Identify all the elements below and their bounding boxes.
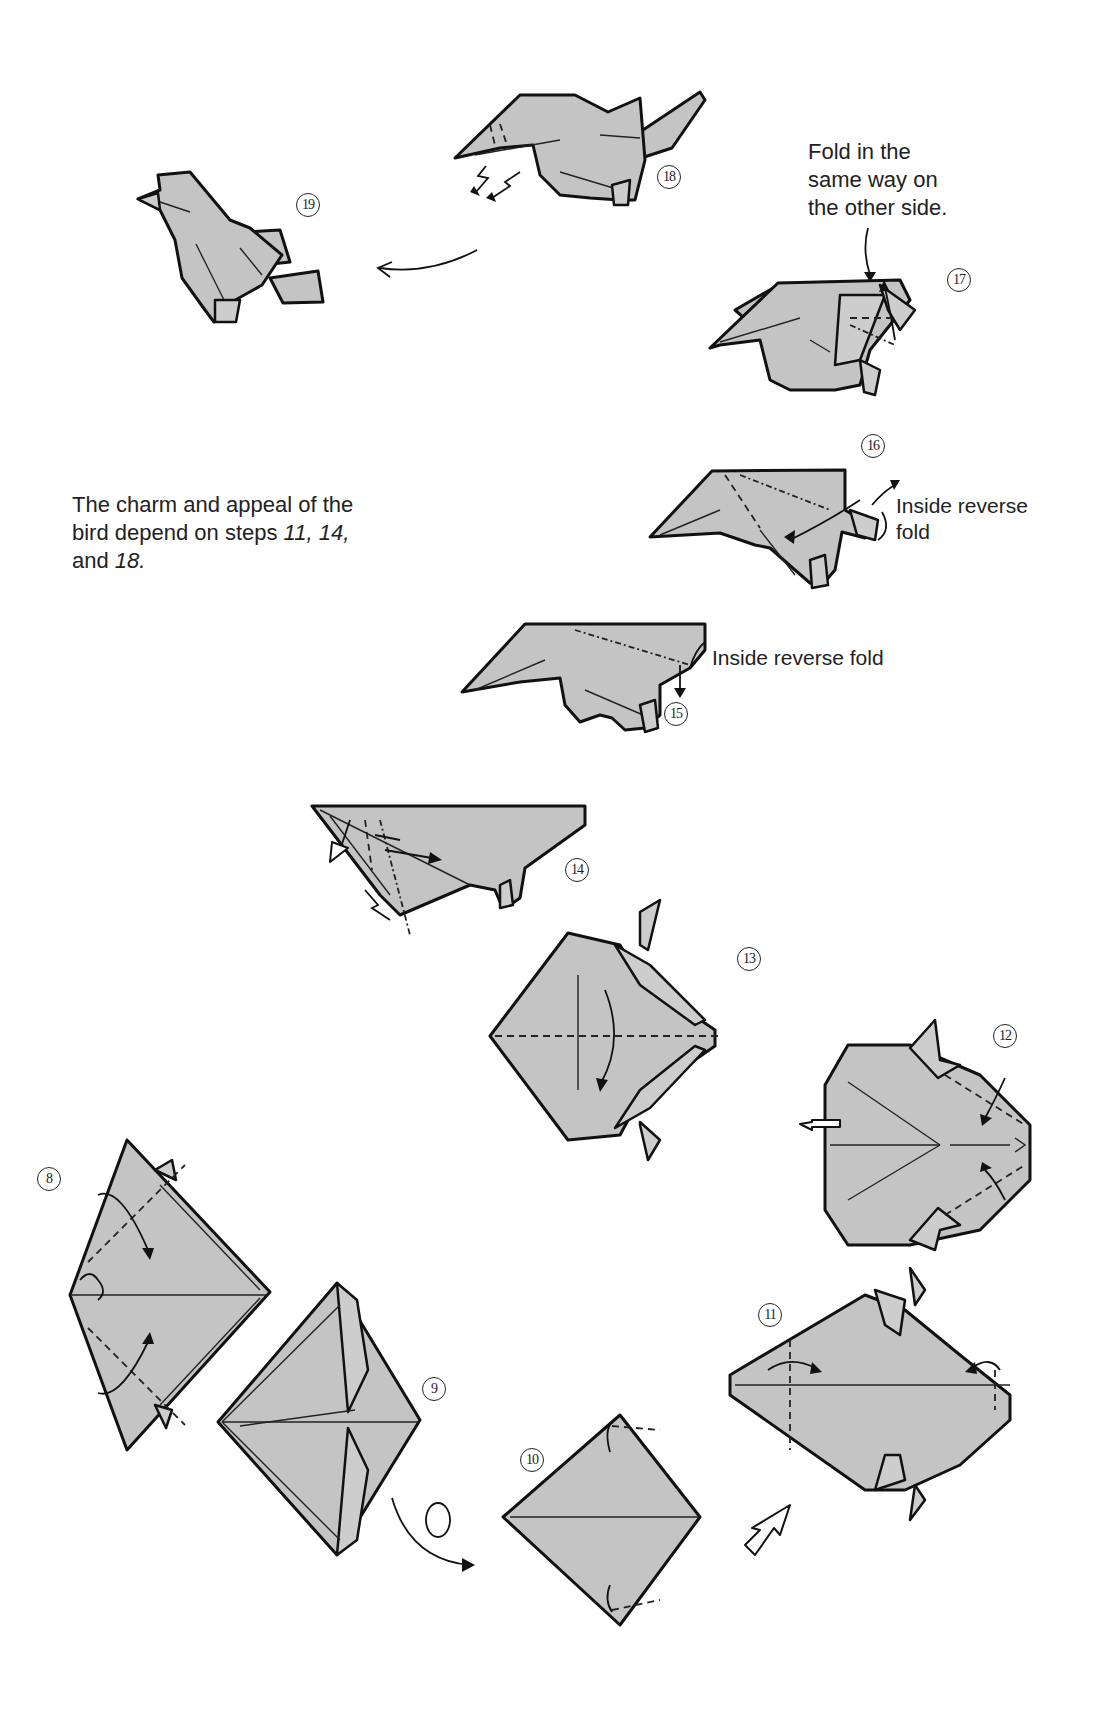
step-number-18: 18 — [657, 165, 681, 189]
diagram-artwork — [0, 0, 1110, 1722]
step-number-12: 12 — [993, 1024, 1017, 1048]
note-line: and 18. — [72, 547, 353, 575]
step-number-17: 17 — [947, 268, 971, 292]
step-number-16: 16 — [861, 434, 885, 458]
note-line: The charm and appeal of the — [72, 491, 353, 519]
step-number-15: 15 — [664, 702, 688, 726]
note-line: same way on — [808, 166, 947, 194]
note-charm-and-appeal: The charm and appeal of the bird depend … — [72, 491, 353, 575]
step-17-wing-fold — [710, 228, 915, 395]
label-line: fold — [896, 519, 1028, 545]
step-number-9: 9 — [422, 1377, 446, 1401]
step-14-crimp-fold — [312, 806, 585, 935]
arrow-10-to-11-outline — [745, 1505, 790, 1555]
step-number-19: 19 — [296, 193, 320, 217]
step-9-narrowed-diamond — [218, 1283, 420, 1555]
step-number-11: 11 — [758, 1303, 782, 1327]
note-line: bird depend on steps 11, 14, — [72, 519, 353, 547]
note-step-refs: 18. — [115, 548, 146, 573]
note-text: and — [72, 548, 115, 573]
label-line: Inside reverse — [896, 493, 1028, 519]
turn-over-symbol-icon — [392, 1498, 475, 1572]
step-number-10: 10 — [520, 1448, 544, 1472]
label-step15-inside-reverse-fold: Inside reverse fold — [712, 645, 884, 671]
note-line: the other side. — [808, 194, 947, 222]
origami-instruction-page: 19 18 17 16 15 14 13 12 11 10 9 8 Fold i… — [0, 0, 1110, 1722]
step-13-diamond-fold-in-half — [490, 900, 718, 1160]
step-number-8: 8 — [37, 1167, 61, 1191]
label-step16-inside-reverse-fold: Inside reverse fold — [896, 493, 1028, 545]
step-number-14: 14 — [565, 858, 589, 882]
step-10-turned-over-diamond — [503, 1415, 700, 1625]
step-12-hexagon — [800, 1020, 1030, 1250]
step-number-13: 13 — [737, 947, 761, 971]
step-16-tail-reverse-fold — [650, 470, 900, 588]
note-step-refs: 11, 14, — [284, 520, 350, 545]
note-text: bird depend on steps — [72, 520, 284, 545]
note-fold-same-way: Fold in the same way on the other side. — [808, 138, 947, 222]
note-line: Fold in the — [808, 138, 947, 166]
step-19-finished-bird — [138, 172, 323, 322]
arrow-18-to-19 — [380, 250, 477, 270]
